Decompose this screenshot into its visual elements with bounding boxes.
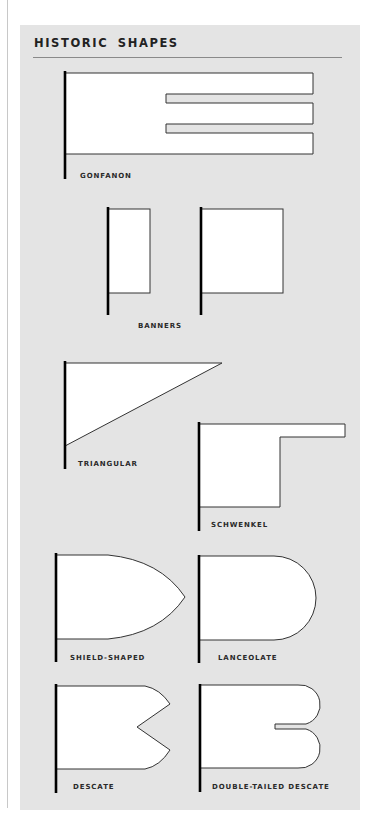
banner-square-flag-icon bbox=[201, 207, 283, 315]
double-tailed-descate-flag-icon bbox=[200, 684, 320, 792]
gonfanon-flag-icon bbox=[65, 71, 313, 179]
label-gonfanon: GONFANON bbox=[80, 172, 132, 180]
label-lanceolate: LANCEOLATE bbox=[218, 654, 278, 662]
flag-shapes-illustration bbox=[0, 0, 371, 820]
lanceolate-flag-icon bbox=[199, 555, 316, 663]
label-schwenkel: SCHWENKEL bbox=[211, 521, 268, 529]
banner-narrow-flag-icon bbox=[108, 207, 150, 315]
label-double-tailed-descate: DOUBLE-TAILED DESCATE bbox=[212, 783, 330, 791]
label-descate: DESCATE bbox=[73, 783, 115, 791]
label-triangular: TRIANGULAR bbox=[78, 460, 138, 468]
label-banners: BANNERS bbox=[138, 322, 182, 330]
shield-shaped-flag-icon bbox=[56, 553, 185, 662]
label-shield-shaped: SHIELD-SHAPED bbox=[70, 654, 145, 662]
schwenkel-flag-icon bbox=[199, 422, 345, 531]
descate-flag-icon bbox=[56, 684, 170, 793]
